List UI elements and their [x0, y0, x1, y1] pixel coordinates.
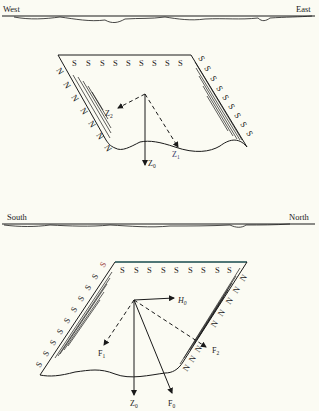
pole-label: S	[227, 265, 232, 275]
pole-label: S	[174, 265, 179, 275]
pole-label: S	[214, 84, 225, 94]
pole-label: S	[97, 259, 108, 269]
ground-surface-bottom	[2, 224, 315, 227]
pole-label: N	[186, 353, 198, 364]
vector-label-z2: Z2	[105, 109, 113, 119]
vector-f1-arrow	[104, 300, 134, 345]
pole-label: N	[69, 93, 81, 104]
pole-label: S	[147, 265, 152, 275]
pole-label: S	[54, 326, 65, 336]
pole-label: S	[226, 102, 237, 112]
vector-label-f0: F0	[168, 399, 175, 409]
pole-label: N	[54, 66, 66, 77]
pole-label: S	[40, 348, 51, 358]
vector-label-f1: F1	[98, 349, 105, 359]
pole-label: S	[165, 58, 170, 68]
vector-label-f2: F2	[212, 346, 219, 356]
bottom-figure: South North S S S S S	[2, 212, 315, 409]
pole-label: N	[223, 295, 235, 306]
top-edge-pole-labels-bottom: S S S S S S S S S	[120, 265, 232, 275]
top-edge-pole-labels-top: S S S S S S S S S	[72, 58, 183, 68]
pole-label: S	[139, 58, 144, 68]
pole-label: S	[188, 265, 193, 275]
magnetized-body-bottom	[40, 262, 247, 377]
pole-label: N	[94, 131, 106, 142]
pole-label: N	[86, 119, 98, 130]
left-edge-hatching-top	[73, 75, 111, 138]
vector-z2-arrow	[118, 94, 145, 108]
pole-label: N	[208, 318, 220, 329]
vector-h0-arrow	[134, 298, 174, 300]
orientation-label-west: West	[3, 4, 20, 14]
pole-label: N	[237, 272, 249, 283]
pole-label: S	[202, 64, 213, 74]
pole-label: S	[113, 58, 118, 68]
pole-label: N	[61, 80, 73, 91]
vector-label-h0: H0	[177, 296, 187, 306]
top-figure: West East S S S S S S	[2, 4, 315, 169]
orientation-label-south: South	[7, 212, 28, 222]
pole-label: N	[78, 106, 90, 117]
pole-label: S	[238, 120, 249, 130]
vector-f0-arrow	[134, 300, 172, 393]
pole-label: N	[215, 307, 227, 318]
pole-label: N	[230, 284, 242, 295]
pole-label: N	[102, 143, 114, 154]
pole-label: S	[86, 58, 91, 68]
pole-label: S	[47, 337, 58, 347]
vector-label-z1: Z1	[172, 150, 180, 160]
pole-label: S	[100, 58, 105, 68]
vector-label-z0: Z0	[148, 159, 156, 169]
magnetized-body-top	[58, 55, 247, 151]
pole-label: S	[82, 282, 93, 292]
pole-label: S	[232, 111, 243, 121]
vectors-top	[118, 94, 178, 165]
pole-label: S	[33, 359, 44, 369]
pole-label: N	[180, 362, 192, 373]
vector-z1-arrow	[145, 94, 178, 147]
pole-label: S	[75, 293, 86, 303]
pole-label: S	[196, 54, 207, 64]
pole-label: S	[215, 265, 220, 275]
pole-label: N	[192, 343, 204, 354]
magnetization-diagram: West East S S S S S S	[0, 0, 319, 411]
right-edge-pole-labels-top: S S S S S S S S S	[196, 54, 255, 139]
right-edge-pole-labels-bottom: N N N N N N N N	[180, 272, 249, 373]
pole-label: S	[61, 315, 72, 325]
pole-label: S	[152, 58, 157, 68]
pole-label: S	[89, 271, 100, 281]
pole-label: S	[72, 58, 77, 68]
pole-label: S	[220, 93, 231, 103]
right-edge-hatching-bottom	[180, 268, 240, 364]
pole-label: S	[161, 265, 166, 275]
pole-label: S	[178, 58, 183, 68]
pole-label: S	[120, 265, 125, 275]
pole-label: S	[68, 304, 79, 314]
pole-label: S	[201, 265, 206, 275]
pole-label: S	[126, 58, 131, 68]
pole-label: S	[134, 265, 139, 275]
orientation-label-north: North	[289, 212, 310, 222]
pole-label: S	[244, 129, 255, 139]
vector-label-z0: Z0	[130, 399, 138, 409]
pole-label: S	[208, 74, 219, 84]
ground-surface-top	[2, 16, 315, 23]
orientation-label-east: East	[296, 4, 311, 14]
vector-f2-arrow	[134, 300, 206, 347]
